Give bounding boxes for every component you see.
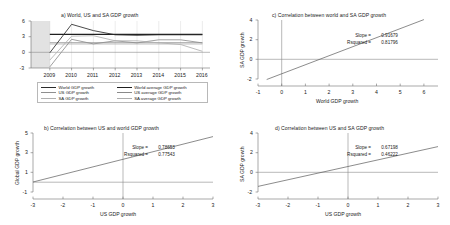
legend-item-sa: SA GDP growth bbox=[41, 96, 112, 101]
panel-b-slope-annotation: Slope = 0.78653 bbox=[115, 145, 175, 150]
legend-label-sa-average: SA average GDP growth bbox=[134, 96, 181, 101]
panel-a-xtick-2014: 2014 bbox=[153, 72, 165, 78]
panel-d-xtick-3: 3 bbox=[437, 202, 440, 208]
panel-b-xtick-2: 2 bbox=[182, 202, 185, 208]
panel-d-xtick-2: 2 bbox=[407, 202, 410, 208]
panel-d-xtick-neg2: -2 bbox=[286, 202, 291, 208]
panel-a-ytick-neg3: -3 bbox=[20, 65, 25, 71]
panel-a-series-us bbox=[50, 39, 203, 67]
panel-b-rsquared-value: 0.77543 bbox=[158, 152, 175, 157]
panel-a-ytick-0: 0 bbox=[22, 49, 25, 55]
panel-c-slope-value: 0.91679 bbox=[381, 33, 398, 38]
panel-d-title: d) Correlation between US and SA GDP gro… bbox=[275, 125, 384, 131]
panel-b-ytick-3: 3 bbox=[25, 149, 28, 155]
panel-c-ytick-neg2: -2 bbox=[247, 76, 252, 82]
panel-a-shaded-region bbox=[31, 21, 50, 68]
legend-item-world: World GDP growth bbox=[41, 85, 112, 90]
legend-label-us: US GDP growth bbox=[59, 90, 90, 95]
legend-label-world-average: World average GDP growth bbox=[134, 85, 186, 90]
panel-b-rsquared-label: Rsquared = bbox=[115, 152, 148, 157]
panel-d-xtick-neg1: -1 bbox=[316, 202, 321, 208]
panel-a-xtick-2013: 2013 bbox=[131, 72, 143, 78]
panel-d-slope-value: 0.67198 bbox=[381, 145, 398, 150]
panel-d-us-vs-sa-correlation: d) Correlation between US and SA GDP gro… bbox=[225, 112, 450, 225]
panel-c-title: c) Correlation between world and SA GDP … bbox=[272, 12, 386, 18]
legend-swatch-world-average-icon bbox=[117, 87, 132, 88]
panel-d-rsquared-value: 0.46222 bbox=[381, 152, 398, 157]
panel-a-xtick-2010: 2010 bbox=[65, 72, 77, 78]
panel-b-xtick-neg2: -2 bbox=[61, 202, 66, 208]
legend-swatch-sa-average-icon bbox=[117, 98, 132, 99]
panel-b-ytick-1: 1 bbox=[25, 169, 28, 175]
panel-d-ytick-0: 0 bbox=[250, 169, 253, 175]
panel-c-ytick-4: 4 bbox=[250, 17, 253, 23]
legend-item-us-average: US average GDP growth bbox=[117, 90, 204, 95]
panel-c-slope-annotation: Slope = 0.91679 bbox=[338, 33, 398, 38]
panel-d-ytick-4: 4 bbox=[250, 130, 253, 136]
legend-item-us: US GDP growth bbox=[41, 90, 112, 95]
legend-item-sa-average: SA average GDP growth bbox=[117, 96, 204, 101]
panel-c-xtick-0: 0 bbox=[280, 89, 283, 95]
panel-b-ytick-5: 5 bbox=[25, 130, 28, 136]
panel-d-rsquared-annotation: Rsquared = 0.46222 bbox=[338, 152, 398, 157]
panel-c-xtick-3: 3 bbox=[351, 89, 354, 95]
panel-c-rsquared-annotation: Rsquared = 0.81796 bbox=[338, 40, 398, 45]
panel-b-xtick-neg1: -1 bbox=[91, 202, 96, 208]
panel-a-xtick-2016: 2016 bbox=[196, 72, 208, 78]
panel-c-slope-label: Slope = bbox=[338, 33, 371, 38]
panel-a-xtick-2015: 2015 bbox=[174, 72, 186, 78]
panel-a-series-world bbox=[50, 24, 203, 53]
panel-a-ytick-6: 6 bbox=[22, 18, 25, 24]
panel-c-rsquared-value: 0.81796 bbox=[381, 40, 398, 45]
panel-c-xtick-4: 4 bbox=[375, 89, 378, 95]
legend-swatch-sa-icon bbox=[41, 98, 56, 99]
panel-a-xtick-2012: 2012 bbox=[109, 72, 121, 78]
panel-c-y-ticks bbox=[256, 20, 258, 79]
panel-b-x-ticks bbox=[33, 197, 213, 199]
panel-b-xtick-0: 0 bbox=[122, 202, 125, 208]
panel-d-y-ticks bbox=[256, 133, 258, 192]
panel-b-x-axis-label: US GDP growth bbox=[100, 211, 136, 217]
panel-c-xtick-neg1: -1 bbox=[256, 89, 261, 95]
panel-c-y-axis-label: SA GDP growth bbox=[239, 32, 245, 68]
panel-d-y-axis-label: SA GDP growth bbox=[239, 146, 245, 182]
legend-item-world-average: World average GDP growth bbox=[117, 85, 204, 90]
panel-d-rsquared-label: Rsquared = bbox=[338, 152, 371, 157]
panel-c-xtick-2: 2 bbox=[328, 89, 331, 95]
figure-panel-grid: a) World, US and SA GDP growth bbox=[0, 0, 450, 225]
panel-b-slope-label: Slope = bbox=[115, 145, 148, 150]
panel-d-slope-annotation: Slope = 0.67198 bbox=[338, 145, 398, 150]
legend-label-sa: SA GDP growth bbox=[59, 96, 89, 101]
panel-d-ytick-2: 2 bbox=[250, 149, 253, 155]
panel-c-world-vs-sa-correlation: c) Correlation between world and SA GDP … bbox=[225, 0, 450, 112]
panel-b-us-vs-world-correlation: b) Correlation between US and world GDP … bbox=[0, 112, 225, 225]
panel-a-title: a) World, US and SA GDP growth bbox=[61, 12, 138, 18]
panel-c-ytick-2: 2 bbox=[250, 36, 253, 42]
panel-c-regression-line bbox=[267, 20, 424, 80]
panel-b-rsquared-annotation: Rsquared = 0.77543 bbox=[115, 152, 175, 157]
legend-label-us-average: US average GDP growth bbox=[134, 90, 181, 95]
panel-b-slope-value: 0.78653 bbox=[158, 145, 175, 150]
panel-b-xtick-neg3: -3 bbox=[31, 202, 36, 208]
panel-c-rsquared-label: Rsquared = bbox=[338, 40, 371, 45]
panel-d-xtick-1: 1 bbox=[377, 202, 380, 208]
panel-a-legend: World GDP growth World average GDP growt… bbox=[37, 82, 208, 103]
panel-b-xtick-1: 1 bbox=[152, 202, 155, 208]
panel-d-ytick-neg2: -2 bbox=[248, 189, 253, 195]
legend-swatch-world-icon bbox=[41, 87, 56, 88]
panel-b-y-axis-label: Global GDP growth bbox=[14, 141, 20, 185]
panel-b-ytick-neg1: -1 bbox=[23, 189, 28, 195]
panel-a-xtick-2009: 2009 bbox=[44, 72, 56, 78]
panel-a-y-ticks bbox=[29, 21, 31, 68]
panel-b-y-ticks bbox=[31, 133, 33, 192]
panel-d-x-axis-label: US GDP growth bbox=[325, 211, 361, 217]
legend-label-world: World GDP growth bbox=[59, 85, 95, 90]
panel-c-x-axis-label: World GDP growth bbox=[316, 98, 358, 104]
panel-a-world-us-sa-gdp-growth: a) World, US and SA GDP growth bbox=[0, 0, 225, 112]
panel-a-ytick-3: 3 bbox=[22, 33, 25, 39]
panel-d-xtick-0: 0 bbox=[347, 202, 350, 208]
panel-c-xtick-1: 1 bbox=[304, 89, 307, 95]
panel-a-x-ticks bbox=[50, 68, 203, 70]
legend-swatch-us-average-icon bbox=[117, 92, 132, 93]
panel-b-xtick-3: 3 bbox=[212, 202, 215, 208]
